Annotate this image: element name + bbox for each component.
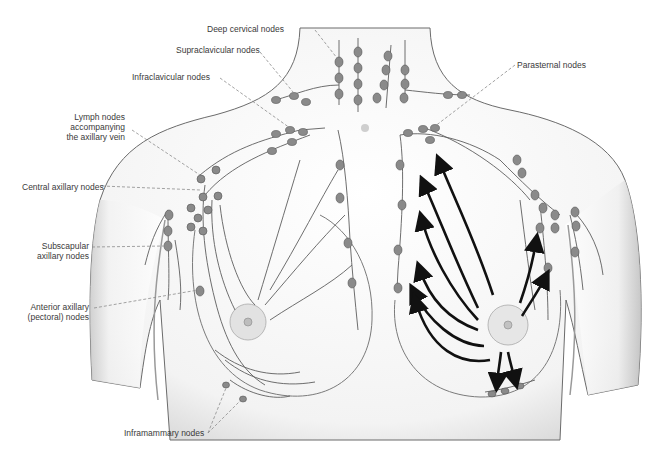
label-anterior-axillary: Anterior axillary (pectoral) nodes [28,302,89,322]
torso-outline [90,28,641,440]
label-axillary-vein: Lymph nodes accompanying the axillary ve… [66,112,125,142]
label-inframammary: Inframammary nodes [124,428,204,438]
label-infraclavicular: Infraclavicular nodes [132,72,210,82]
label-supraclavicular: Supraclavicular nodes [176,45,260,55]
label-central-axillary: Central axillary nodes [22,182,104,192]
label-parasternal: Parasternal nodes [517,60,586,70]
label-subscapular: Subscapular axillary nodes [37,241,89,261]
node-deep-cervical [335,57,343,67]
label-deep-cervical: Deep cervical nodes [207,24,284,34]
